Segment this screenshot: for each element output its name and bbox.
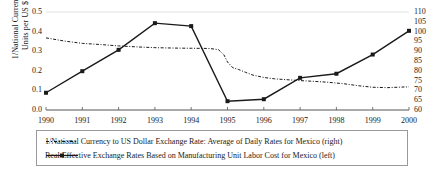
series-line-exchange-rate: [46, 38, 409, 88]
legend-swatch-solid-marker: [45, 151, 79, 160]
series-marker-real-effective-rate: [226, 99, 230, 103]
series-marker-real-effective-rate: [44, 91, 48, 95]
series-marker-real-effective-rate: [334, 72, 338, 76]
legend-swatch-dash-dot: [45, 137, 79, 146]
legend-item-exchange-rate: 1/National Currency to US Dollar Exchang…: [45, 137, 342, 146]
chart-legend: 1/National Currency to US Dollar Exchang…: [36, 130, 408, 166]
series-marker-real-effective-rate: [262, 97, 266, 101]
series-marker-real-effective-rate: [153, 21, 157, 25]
series-marker-real-effective-rate: [371, 53, 375, 57]
legend-label-exchange-rate: 1/National Currency to US Dollar Exchang…: [45, 137, 342, 146]
series-marker-real-effective-rate: [80, 69, 84, 73]
series-marker-real-effective-rate: [298, 76, 302, 80]
legend-item-real-effective-rate: Real Effective Exchange Rates Based on M…: [45, 151, 335, 160]
exchange-rate-chart: 1/National Currency Units per US $ 0.00.…: [0, 0, 435, 174]
series-marker-real-effective-rate: [407, 29, 411, 33]
series-marker-real-effective-rate: [189, 24, 193, 28]
series-marker-real-effective-rate: [117, 48, 121, 52]
legend-label-real-effective-rate: Real Effective Exchange Rates Based on M…: [45, 151, 335, 160]
